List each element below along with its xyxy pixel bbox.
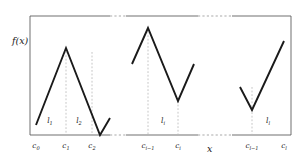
interval-label: li bbox=[161, 116, 165, 126]
tick-sub: l−1 bbox=[249, 145, 258, 151]
interval-label: ll bbox=[266, 116, 270, 126]
panel-gap-two bbox=[198, 16, 232, 135]
tick-label: c1 bbox=[62, 141, 69, 151]
tick-label: ci−1 bbox=[141, 141, 154, 151]
tick-label: c2 bbox=[88, 141, 95, 151]
interval-sub: i bbox=[163, 120, 165, 126]
interval-sub: 2 bbox=[78, 120, 82, 126]
tick-sub: i−1 bbox=[145, 145, 154, 151]
panel-gap-one bbox=[110, 16, 126, 135]
tick-label: cl bbox=[281, 141, 287, 151]
tick-label-group: c0 c1 c2 ci−1 ci cl−1 cl bbox=[32, 141, 287, 151]
tick-label: cl−1 bbox=[245, 141, 258, 151]
interval-label: l2 bbox=[76, 116, 82, 126]
interval-sub: 1 bbox=[50, 120, 53, 126]
interval-label-group: l1 l2 li ll bbox=[47, 116, 270, 126]
curve-segment-middle bbox=[132, 28, 194, 101]
tick-label: c0 bbox=[32, 141, 40, 151]
interval-label: l1 bbox=[47, 116, 53, 126]
tick-sub: i bbox=[179, 145, 181, 151]
curve-segment-right bbox=[240, 41, 284, 110]
figure-container: f(x) x c0 c1 c2 ci−1 ci cl−1 cl bbox=[0, 0, 299, 158]
x-axis-label: x bbox=[207, 143, 213, 154]
tick-sub: l bbox=[285, 145, 287, 151]
interval-sub: l bbox=[268, 120, 270, 126]
tick-label: ci bbox=[175, 141, 181, 151]
y-axis-label: f(x) bbox=[11, 35, 29, 46]
tick-sub: 1 bbox=[66, 145, 69, 151]
tick-sub: 2 bbox=[91, 145, 95, 151]
panel-right-frame bbox=[232, 16, 291, 135]
panel-left-frame bbox=[30, 16, 110, 135]
tick-sub: 0 bbox=[36, 145, 40, 151]
function-plot: f(x) x c0 c1 c2 ci−1 ci cl−1 cl bbox=[0, 0, 299, 158]
